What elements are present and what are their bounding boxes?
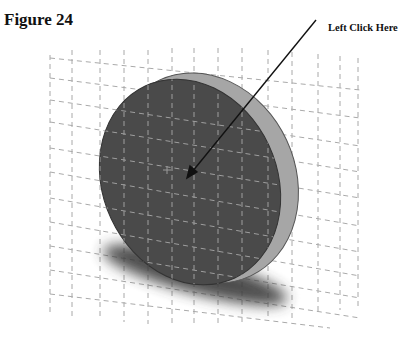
disk-face: [66, 49, 313, 315]
cad-viewport: [0, 0, 416, 338]
